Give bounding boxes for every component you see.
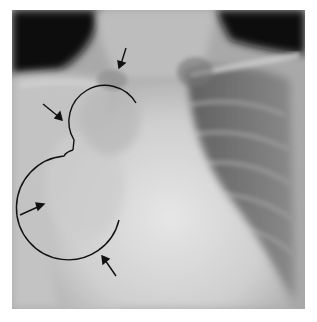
- chest-xray-image: [12, 10, 305, 309]
- xray-drawing: [12, 10, 305, 309]
